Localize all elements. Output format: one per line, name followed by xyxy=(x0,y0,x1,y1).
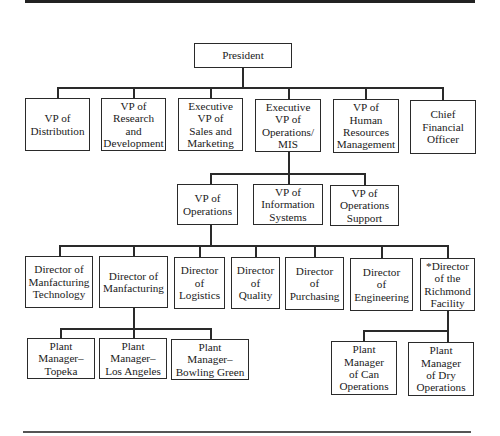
connector xyxy=(242,68,244,88)
box-label: VP of Distribution xyxy=(30,112,84,137)
vp-operations-box: VP of Operations xyxy=(177,184,238,225)
connector xyxy=(381,245,383,258)
richmond-bus xyxy=(363,330,448,332)
level1-bus xyxy=(57,87,444,89)
connector xyxy=(57,87,59,98)
connector xyxy=(133,87,135,98)
connector xyxy=(363,330,365,341)
connector xyxy=(133,245,135,256)
dir-richmond-facility-box: *Director of the Richmond Facility xyxy=(420,258,475,311)
box-label: VP of Operations Support xyxy=(340,187,389,224)
bottom-rule xyxy=(23,431,471,433)
president-box: President xyxy=(194,43,292,68)
box-label: Director of Logistics xyxy=(179,264,220,301)
connector xyxy=(60,328,62,338)
dir-quality-box: Director of Quality xyxy=(231,257,280,309)
pm-los-angeles-box: Plant Manager– Los Angeles xyxy=(99,338,167,379)
pm-can-operations-box: Plant Manager of Can Operations xyxy=(331,341,397,395)
box-label: VP of Information Systems xyxy=(261,186,314,223)
level3-bus xyxy=(59,245,448,247)
dir-engineering-box: Director of Engineering xyxy=(350,258,413,311)
cfo-box: Chief Financial Officer xyxy=(410,100,476,154)
connector xyxy=(210,87,212,98)
box-label: Director of Quality xyxy=(237,264,274,301)
connector xyxy=(447,330,449,342)
connector xyxy=(210,328,212,339)
connector xyxy=(364,173,366,185)
vp-distribution-box: VP of Distribution xyxy=(25,98,90,151)
pm-topeka-box: Plant Manager– Topeka xyxy=(27,338,95,379)
connector xyxy=(288,152,290,174)
box-label: Plant Manager– Los Angeles xyxy=(105,340,161,377)
vp-information-systems-box: VP of Information Systems xyxy=(253,184,323,225)
president-label: President xyxy=(222,49,264,61)
vp-human-resources-box: VP of Human Resources Management xyxy=(333,99,399,153)
box-label: Director of Manfacturing xyxy=(103,270,164,295)
box-label: Executive VP of Operations/ MIS xyxy=(262,101,314,151)
connector xyxy=(210,173,212,184)
box-label: Director of Purchasing xyxy=(290,265,340,302)
connector xyxy=(314,245,316,257)
box-label: Plant Manager of Can Operations xyxy=(339,343,388,393)
connector xyxy=(365,87,367,99)
box-label: Plant Manager– Bowling Green xyxy=(176,341,245,378)
box-label: Director of Manfacturing Technology xyxy=(29,263,90,300)
box-label: Executive VP of Sales and Marketing xyxy=(187,100,234,150)
vp-research-development-box: VP of Research and Development xyxy=(101,98,166,151)
dir-logistics-box: Director of Logistics xyxy=(174,257,225,309)
connector xyxy=(447,245,449,258)
box-label: Plant Manager of Dry Operations xyxy=(416,344,465,394)
box-label: VP of Operations xyxy=(183,192,232,217)
box-label: *Director of the Richmond Facility xyxy=(424,260,471,310)
connector xyxy=(133,308,135,329)
pm-bowling-green-box: Plant Manager– Bowling Green xyxy=(171,339,249,380)
box-label: Chief Financial Officer xyxy=(422,108,464,145)
connector xyxy=(442,87,444,100)
connector xyxy=(255,245,257,257)
connector xyxy=(210,225,212,246)
top-rule xyxy=(25,0,475,3)
evp-sales-marketing-box: Executive VP of Sales and Marketing xyxy=(178,98,243,151)
evp-operations-mis-box: Executive VP of Operations/ MIS xyxy=(255,99,321,152)
box-label: VP of Human Resources Management xyxy=(337,101,395,151)
connector xyxy=(133,328,135,338)
connector xyxy=(199,245,201,257)
manufacturing-bus xyxy=(60,328,210,330)
box-label: VP of Research and Development xyxy=(103,100,163,150)
box-label: Plant Manager– Topeka xyxy=(38,340,83,377)
connector xyxy=(447,311,449,331)
connector xyxy=(288,173,290,184)
dir-purchasing-box: Director of Purchasing xyxy=(285,257,344,310)
connector xyxy=(59,245,61,256)
dir-manufacturing-technology-box: Director of Manfacturing Technology xyxy=(25,256,93,308)
connector xyxy=(288,87,290,99)
vp-operations-support-box: VP of Operations Support xyxy=(330,185,399,226)
box-label: Director of Engineering xyxy=(354,266,409,303)
dir-manufacturing-box: Director of Manfacturing xyxy=(99,256,168,308)
pm-dry-operations-box: Plant Manager of Dry Operations xyxy=(408,342,474,396)
